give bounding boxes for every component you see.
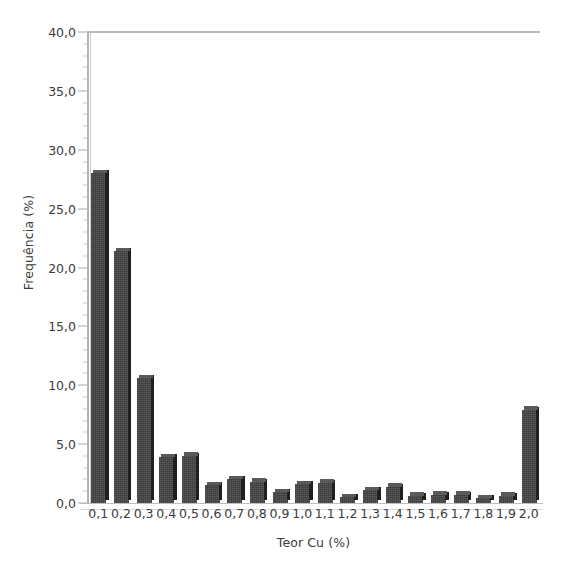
bar-side-face [536,407,540,500]
bar-front-face [454,495,469,503]
bar [227,475,241,503]
bar [408,492,422,503]
bar-front-face [499,496,514,503]
y-tick-mark [78,32,87,33]
y-tick-mark [78,326,87,327]
bar-front-face [295,484,310,503]
bar-side-face [105,170,109,500]
y-tick-mark [78,385,87,386]
bar-series [87,32,540,503]
x-tick-label: 0,4 [156,506,176,521]
bar-front-face [318,483,333,503]
x-tick-label: 1,2 [338,506,358,521]
x-tick-label: 0,8 [247,506,267,521]
bar-side-face [241,476,245,500]
bar-top-face [161,454,175,458]
bar [273,488,287,503]
x-tick-label: 1,6 [428,506,448,521]
bar-front-face [431,495,446,503]
x-axis-title: Teor Cu (%) [87,535,540,550]
y-tick-label: 10,0 [20,378,76,393]
bar [363,486,377,503]
y-tick-label: 5,0 [20,437,76,452]
x-tick-label: 1,0 [292,506,312,521]
bar-front-face [408,496,423,503]
bar-front-face [205,485,220,503]
y-tick-label: 30,0 [20,142,76,157]
bar [454,491,468,503]
bar-top-face [320,479,334,483]
y-tick-mark [78,267,87,268]
bar-front-face [159,457,174,503]
x-tick-label: 0,5 [179,506,199,521]
bar-top-face [365,487,379,491]
bar-front-face [340,497,355,503]
y-tick-mark [78,149,87,150]
x-axis-tick-labels: 0,10,20,30,40,50,60,70,80,91,01,11,21,31… [87,506,540,532]
x-tick-label: 0,2 [111,506,131,521]
bar-front-face [137,378,152,503]
bar-front-face [182,456,197,503]
y-tick-label: 40,0 [20,25,76,40]
x-tick-label: 1,3 [360,506,380,521]
x-tick-label: 0,9 [270,506,290,521]
bar [250,478,264,503]
bar-front-face [273,492,288,503]
x-tick-label: 2,0 [519,506,539,521]
bar [522,406,536,503]
bar [476,494,490,503]
bar-front-face [91,173,106,503]
bar-front-face [250,482,265,503]
bar-front-face [227,479,242,503]
bar [114,247,128,503]
bar-front-face [386,487,401,503]
bar-top-face [433,491,447,495]
bar-top-face [410,492,424,496]
y-tick-label: 25,0 [20,201,76,216]
bar-top-face [252,478,266,482]
bar-top-face [116,248,130,252]
bar [137,374,151,503]
y-tick-label: 0,0 [20,496,76,511]
bar [318,479,332,503]
x-tick-label: 0,1 [88,506,108,521]
bar-top-face [456,491,470,495]
bar-top-face [184,452,198,456]
bar-side-face [264,479,268,500]
bar [340,493,354,503]
bar [182,452,196,503]
x-tick-label: 1,9 [496,506,516,521]
bar-top-face [342,494,356,498]
bar-top-face [93,170,107,174]
y-tick-mark [78,208,87,209]
y-tick-mark [78,444,87,445]
y-tick-mark [78,90,87,91]
bar-side-face [196,453,200,500]
x-tick-label: 0,3 [134,506,154,521]
bar-top-face [275,489,289,493]
bar-top-face [229,476,243,480]
bar-side-face [173,454,177,500]
x-tick-label: 0,6 [202,506,222,521]
bar [159,453,173,503]
y-tick-label: 20,0 [20,260,76,275]
x-tick-label: 1,8 [473,506,493,521]
y-tick-label: 35,0 [20,83,76,98]
frequency-histogram-figure: Frequência (%) 0,05,010,015,020,025,030,… [0,0,579,571]
x-tick-label: 1,7 [451,506,471,521]
bar-top-face [207,482,221,486]
bar-top-face [139,375,153,379]
x-tick-label: 0,7 [224,506,244,521]
bar-front-face [522,410,537,503]
bar [205,481,219,503]
bar [431,491,445,503]
x-tick-label: 1,5 [405,506,425,521]
plot-area [87,32,540,503]
x-tick-label: 1,1 [315,506,335,521]
x-tick-label: 1,4 [383,506,403,521]
bar [91,169,105,503]
bar-front-face [363,490,378,503]
bar-side-face [332,480,336,500]
bar [386,483,400,503]
bar-top-face [478,495,492,499]
